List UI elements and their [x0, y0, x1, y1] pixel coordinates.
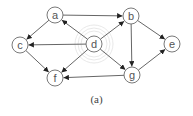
node-b: b — [123, 8, 139, 24]
node-c: c — [12, 37, 28, 53]
edge-a-to-b — [63, 15, 123, 16]
edge-d-to-c — [28, 44, 86, 45]
edge-g-to-f — [63, 75, 124, 77]
node-label: b — [128, 10, 134, 22]
node-d: d — [86, 36, 102, 52]
node-a: a — [47, 7, 63, 23]
node-label: d — [91, 38, 97, 50]
edge-g-to-e — [138, 49, 165, 70]
node-label: c — [17, 39, 23, 51]
nodes: abcdefg — [12, 7, 180, 86]
node-label: e — [169, 38, 175, 50]
edge-d-to-f — [61, 49, 88, 72]
edge-d-to-b — [100, 21, 124, 39]
node-g: g — [124, 67, 140, 83]
node-label: g — [129, 69, 135, 81]
edge-a-to-c — [26, 20, 48, 39]
node-label: a — [52, 9, 59, 21]
node-f: f — [47, 70, 63, 86]
node-e: e — [164, 36, 180, 52]
edge-d-to-a — [62, 20, 88, 39]
figure-caption: (a) — [0, 93, 193, 105]
edge-b-to-e — [138, 21, 165, 40]
edge-c-to-f — [26, 50, 49, 72]
edge-b-to-g — [131, 24, 132, 67]
edge-d-to-g — [100, 49, 125, 70]
